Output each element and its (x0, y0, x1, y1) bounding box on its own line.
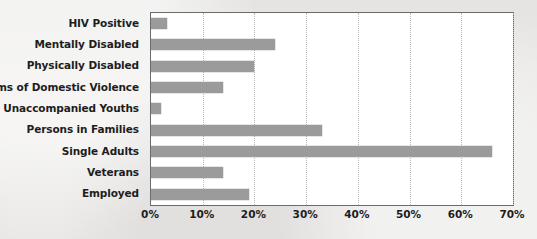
category-label: Single Adults (0, 140, 145, 161)
category-label: Victims of Domestic Violence (0, 76, 145, 97)
category-label: Persons in Families (0, 119, 145, 140)
gridline (513, 13, 514, 205)
x-tick-label: 70% (499, 208, 524, 220)
bar-row (151, 56, 513, 77)
x-tick-label: 50% (396, 208, 421, 220)
bar (151, 103, 161, 114)
category-label: HIV Positive (0, 12, 145, 33)
category-label: Mentally Disabled (0, 33, 145, 54)
bar (151, 61, 254, 72)
bar (151, 18, 167, 29)
bar (151, 39, 275, 50)
bar-chart: HIV Positive Mentally Disabled Physicall… (0, 0, 537, 239)
bar (151, 125, 322, 136)
bar (151, 82, 223, 93)
bar (151, 146, 492, 157)
x-tick-label: 30% (293, 208, 318, 220)
category-label: Veterans (0, 161, 145, 182)
x-axis-tick-labels: 0%10%20%30%40%50%60%70% (150, 208, 512, 226)
plot-area (150, 12, 514, 206)
bar-row (151, 184, 513, 205)
bar (151, 167, 223, 178)
bar-row (151, 141, 513, 162)
x-tick-label: 40% (344, 208, 369, 220)
x-tick-label: 20% (241, 208, 266, 220)
bar (151, 189, 249, 200)
bar-row (151, 162, 513, 183)
x-tick-label: 10% (189, 208, 214, 220)
bar-row (151, 13, 513, 34)
bar-row (151, 77, 513, 98)
x-tick-label: 60% (448, 208, 473, 220)
x-tick-label: 0% (141, 208, 159, 220)
category-axis-labels: HIV Positive Mentally Disabled Physicall… (0, 12, 145, 204)
bar-row (151, 98, 513, 119)
bar-series (151, 13, 513, 205)
category-label: Physically Disabled (0, 55, 145, 76)
bar-row (151, 34, 513, 55)
category-label: Employed (0, 183, 145, 204)
category-label: Unaccompanied Youths (0, 97, 145, 118)
bar-row (151, 120, 513, 141)
